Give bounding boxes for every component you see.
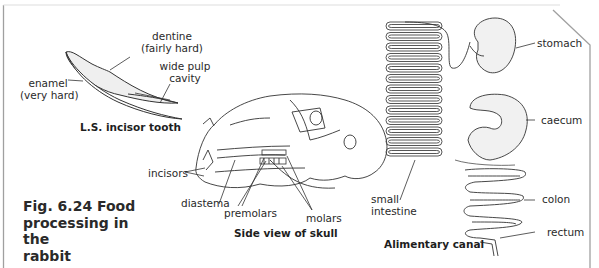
small-intestine-drawing <box>386 22 442 156</box>
caption-skull: Side view of skull <box>234 227 338 239</box>
label-dentine-line1: dentine <box>132 30 212 42</box>
label-small-intestine-line1: small <box>371 193 417 205</box>
label-enamel-line2: (very hard) <box>20 89 76 101</box>
label-pulp-line1: wide pulp <box>150 60 220 72</box>
figure-title-line2: processing in the <box>23 215 153 248</box>
label-small-intestine-line2: intestine <box>371 205 417 217</box>
label-dentine: dentine (fairly hard) <box>132 30 212 54</box>
caption-incisor-tooth: L.S. incisor tooth <box>80 121 181 133</box>
label-enamel: enamel (very hard) <box>20 77 76 101</box>
figure-title-line1: Fig. 6.24 Food <box>23 198 153 215</box>
figure-panel: dentine (fairly hard) wide pulp cavity e… <box>0 0 599 268</box>
label-rectum: rectum <box>547 226 584 238</box>
label-dentine-line2: (fairly hard) <box>132 42 212 54</box>
label-pulp-line2: cavity <box>150 72 220 84</box>
label-small-intestine: small intestine <box>371 193 417 217</box>
label-enamel-line1: enamel <box>20 77 76 89</box>
label-incisors: incisors <box>148 167 188 179</box>
label-stomach: stomach <box>537 37 582 49</box>
figure-title-line3: rabbit <box>23 248 153 265</box>
label-molars: molars <box>306 212 342 224</box>
caecum-drawing <box>468 94 535 160</box>
label-pulp-cavity: wide pulp cavity <box>150 60 220 84</box>
caption-alimentary-canal: Alimentary canal <box>384 238 484 250</box>
figure-title: Fig. 6.24 Food processing in the rabbit <box>23 198 153 264</box>
label-colon: colon <box>542 193 570 205</box>
label-premolars: premolars <box>224 207 277 219</box>
label-caecum: caecum <box>541 114 582 126</box>
label-diastema: diastema <box>181 197 230 209</box>
skull-drawing <box>196 94 387 188</box>
